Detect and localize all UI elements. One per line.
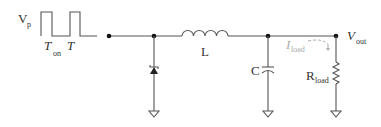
t-on-label: T on — [44, 38, 61, 58]
svg-text:on: on — [53, 49, 61, 58]
svg-text:R: R — [306, 68, 315, 83]
pulse-waveform — [41, 12, 97, 36]
buck-converter-schematic: V p T on T L C — [0, 0, 381, 127]
load-resistor — [333, 36, 339, 111]
capacitor — [262, 36, 274, 111]
load-current-annotation: I load — [285, 37, 330, 54]
svg-text:T: T — [44, 38, 52, 53]
ground-icon — [149, 111, 159, 117]
capacitor-label: C — [251, 63, 260, 78]
node-input — [107, 34, 112, 39]
inductor — [182, 31, 228, 36]
output-voltage-label: V out — [347, 28, 367, 46]
svg-text:out: out — [356, 37, 367, 46]
ground-icon — [263, 111, 273, 117]
resistor-label: R load — [306, 68, 329, 85]
svg-text:load: load — [315, 76, 329, 85]
period-label: T — [67, 38, 75, 53]
source-label: V p — [18, 11, 31, 29]
svg-text:load: load — [291, 45, 305, 54]
freewheeling-diode — [150, 36, 158, 111]
inductor-label: L — [201, 44, 209, 59]
svg-text:p: p — [27, 20, 31, 29]
ground-icon — [331, 111, 341, 117]
